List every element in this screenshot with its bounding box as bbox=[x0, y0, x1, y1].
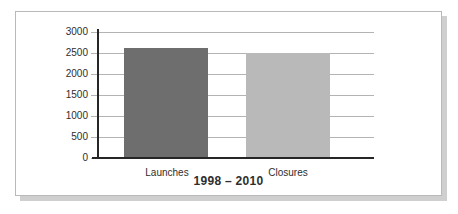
category-labels: LaunchesClosures bbox=[16, 12, 441, 195]
chart-card: 050010001500200025003000 LaunchesClosure… bbox=[15, 11, 442, 196]
screen: 050010001500200025003000 LaunchesClosure… bbox=[0, 0, 458, 214]
x-axis-title: 1998 – 2010 bbox=[16, 174, 441, 188]
